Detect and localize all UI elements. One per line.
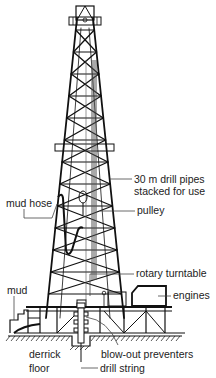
hatch xyxy=(161,336,165,341)
label-drill-pipes-2: stacked for use xyxy=(134,186,205,197)
tower-brace xyxy=(60,162,108,184)
hatch xyxy=(116,336,120,341)
hatch xyxy=(141,336,145,341)
hatch xyxy=(166,336,170,341)
tower-brace xyxy=(53,228,115,250)
hatch xyxy=(146,336,150,341)
mud-tank xyxy=(10,310,40,333)
crown-brace xyxy=(85,6,93,20)
hatch xyxy=(36,336,40,341)
hatch xyxy=(6,336,10,341)
hatch xyxy=(46,336,50,341)
bop-cap xyxy=(77,303,85,308)
base-brace xyxy=(146,311,165,333)
base-brace xyxy=(104,311,124,333)
hatch xyxy=(156,336,160,341)
mud-pipe xyxy=(14,324,40,333)
label-mud-hose: mud hose xyxy=(6,198,52,209)
hatch xyxy=(26,336,30,341)
blow-out-preventers xyxy=(74,303,88,362)
label-engines: engines xyxy=(173,290,210,301)
derrick-tower xyxy=(46,18,124,318)
tower-inner-left-leg xyxy=(60,28,81,318)
hatch xyxy=(96,336,100,341)
hatch xyxy=(151,336,155,341)
hatch xyxy=(56,336,60,341)
bop-body xyxy=(78,308,84,343)
label-drill-string: drill string xyxy=(100,363,145,374)
hatch xyxy=(51,336,55,341)
label-mud: mud xyxy=(7,285,27,296)
tower-brace xyxy=(76,30,97,52)
hatch xyxy=(61,336,65,341)
tower-brace xyxy=(71,52,96,74)
hatch xyxy=(131,336,135,341)
hatch xyxy=(126,336,130,341)
hatch xyxy=(16,336,20,341)
hatch xyxy=(176,336,180,341)
hatch xyxy=(106,336,110,341)
tower-brace xyxy=(73,30,94,52)
tower-brace xyxy=(51,250,117,272)
label-derrick-floor-2: floor xyxy=(29,363,49,374)
crown-brace xyxy=(77,6,85,20)
derrick-base xyxy=(14,291,185,333)
hatch xyxy=(91,336,95,341)
label-derrick-floor: derrick xyxy=(29,349,61,360)
label-blow-out-preventers: blow-out preventers xyxy=(101,349,193,360)
hatch xyxy=(21,336,25,341)
hatch xyxy=(11,336,15,341)
hatch xyxy=(171,336,175,341)
label-rotary-turntable: rotary turntable xyxy=(136,268,207,279)
tower-left-leg xyxy=(46,18,77,318)
tower-brace xyxy=(48,272,119,294)
hatch xyxy=(121,336,125,341)
label-pulley: pulley xyxy=(137,205,164,216)
hatch xyxy=(66,336,70,341)
hatch xyxy=(101,336,105,341)
hatch xyxy=(136,336,140,341)
hatch xyxy=(31,336,35,341)
tower-brace xyxy=(64,118,103,140)
tower-right-leg xyxy=(93,18,124,318)
base-brace xyxy=(124,311,146,333)
label-drill-pipes: 30 m drill pipes xyxy=(134,174,205,185)
hatch xyxy=(41,336,45,341)
crown-block xyxy=(69,6,101,25)
oil-derrick-diagram: 30 m drill pipes stacked for use pulley … xyxy=(0,0,216,378)
